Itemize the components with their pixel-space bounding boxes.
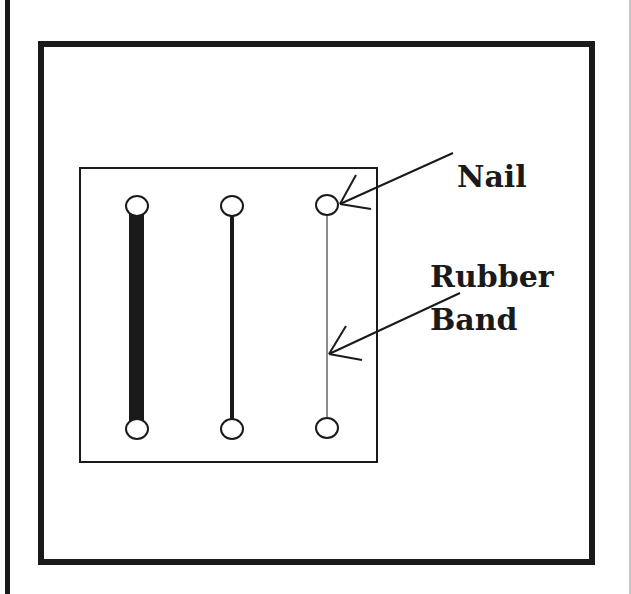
rubber-label-line1: Rubber [430, 259, 555, 294]
nail-top-3 [316, 195, 338, 215]
nail-bottom-2 [221, 419, 243, 439]
rubber-label-line2: Band [430, 302, 518, 337]
nail-bottom-3 [316, 418, 338, 438]
left-edge-bar [5, 0, 10, 594]
band-medium [230, 214, 234, 424]
rubber-band-diagram: Nail Rubber Band [0, 0, 631, 594]
nail-top-2 [221, 196, 243, 216]
nail-label: Nail [457, 159, 527, 194]
nail-bottom-1 [126, 419, 148, 439]
band-thick [129, 214, 144, 424]
diagram-canvas: Nail Rubber Band [0, 0, 631, 594]
nail-arrow [340, 153, 453, 209]
nail-top-1 [126, 196, 148, 216]
